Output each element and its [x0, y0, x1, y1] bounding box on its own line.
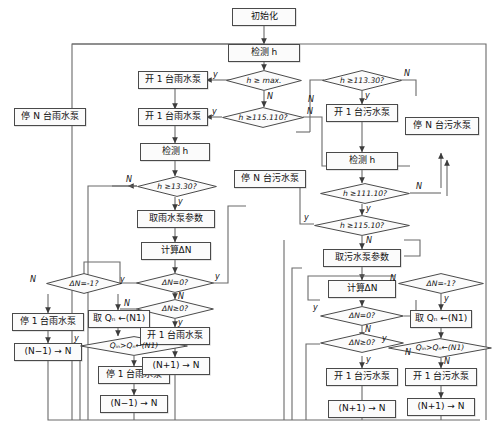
node-decision-h-max[interactable]: h ≥ max.: [226, 70, 302, 91]
edge-label-y-qin-right: y: [382, 334, 387, 343]
node-decision-h-113-30-right-label: h ≥113.30?: [340, 77, 384, 85]
node-stop-1-rain-pump-a-label: 停 1 台雨水泵: [20, 317, 76, 326]
node-open-1-sewage-pump-c[interactable]: 开 1 台污水泵: [405, 368, 477, 386]
node-decision-dn-neg1-right-label: ΔN=-1?: [427, 280, 456, 288]
edge-label-n-hmax: N: [267, 92, 273, 101]
node-decision-h-115110[interactable]: h ≥115.110?: [222, 107, 304, 128]
node-n-plus-1-right-a[interactable]: (N+1) → N: [328, 400, 396, 418]
edge-label-y-dnge0-right: y: [366, 355, 371, 364]
node-open-1-sewage-pump-b[interactable]: 开 1 台污水泵: [326, 368, 398, 386]
node-stop-n-sewage-pumps-mid-label: 停 N 台污水泵: [241, 174, 298, 183]
node-stop-n-rain-pumps-label: 停 N 台雨水泵: [21, 112, 78, 121]
node-decision-dn-neg1-left[interactable]: ΔN=-1?: [46, 273, 122, 294]
node-decision-dn-neg1-left-label: ΔN=-1?: [70, 280, 99, 288]
node-n-plus-1-left[interactable]: (N+1) → N: [142, 357, 210, 375]
node-open-1-sewage-pump-a-label: 开 1 台污水泵: [334, 108, 390, 117]
node-decision-h-113-30-left-label: h ≥13.30?: [157, 183, 196, 191]
edge-label-n-dnge0-left: N: [124, 299, 130, 308]
edge-label-y-qin-left: y: [74, 334, 79, 343]
node-open-1-rain-pump-a-label: 开 1 台雨水泵: [145, 75, 201, 84]
node-n-minus-1-left-a-label: (N−1) → N: [24, 347, 71, 356]
node-decision-qin-right-label: Qᵢₙ>Qₙ←(N1): [416, 344, 465, 352]
edge-label-n-dnneg1-left: N: [30, 275, 36, 284]
edge-label-y-h11510: y: [304, 213, 309, 222]
edge-label-n-h11110: N: [416, 182, 422, 191]
node-calc-dn-right[interactable]: 计算ΔN: [328, 280, 396, 298]
node-decision-h-113-30-left[interactable]: h ≥13.30?: [137, 176, 217, 197]
node-detect-h-top-label: 检测 h: [251, 48, 278, 57]
node-get-sewage-pump-params-label: 取污水泵参数: [335, 253, 389, 262]
node-n-plus-1-left-label: (N+1) → N: [152, 361, 199, 370]
node-stop-1-rain-pump-a[interactable]: 停 1 台雨水泵: [12, 313, 84, 331]
node-open-1-rain-pump-a[interactable]: 开 1 台雨水泵: [138, 71, 208, 89]
edge-label-n-dnge0-right: N: [405, 348, 411, 357]
node-decision-dn-eq0-right-label: ΔN=0?: [349, 312, 375, 320]
edge-label-y-dn0-right: y: [313, 303, 318, 312]
node-decision-dn-eq0-left-label: ΔN=0?: [162, 279, 188, 287]
node-detect-h-right[interactable]: 检测 h: [326, 152, 398, 170]
edge-label-n-dnneg1-right: N: [390, 274, 396, 283]
node-start[interactable]: 初始化: [232, 8, 296, 26]
node-open-1-rain-pump-b-label: 开 1 台雨水泵: [145, 112, 201, 121]
node-detect-h-left[interactable]: 检测 h: [140, 143, 210, 161]
node-n-plus-1-right-b[interactable]: (N+1) → N: [407, 398, 475, 416]
node-decision-qin-right[interactable]: Qᵢₙ>Qₙ←(N1): [388, 338, 492, 358]
node-decision-dn-eq0-left[interactable]: ΔN=0?: [136, 273, 214, 293]
node-decision-h-115-10[interactable]: h ≥115.10?: [314, 215, 410, 236]
node-calc-dn-left[interactable]: 计算ΔN: [141, 242, 211, 260]
node-stop-n-sewage-pumps-mid[interactable]: 停 N 台污水泵: [234, 170, 306, 188]
edge-label-n-qin-right: N: [444, 357, 450, 366]
node-open-1-rain-pump-b[interactable]: 开 1 台雨水泵: [138, 108, 208, 126]
node-decision-h-115-10-label: h ≥115.10?: [340, 222, 384, 230]
node-decision-dn-ge0-left-label: ΔN≥0?: [162, 305, 188, 313]
edge-label-y-dnneg1-right: y: [444, 294, 449, 303]
node-decision-h-111-10[interactable]: h ≥111.10?: [320, 183, 410, 204]
edge-label-n-h11330-right-2: N: [308, 95, 314, 104]
node-stop-n-sewage-pumps-right-label: 停 N 台污水泵: [413, 121, 470, 130]
node-n-minus-1-left-b[interactable]: (N−1) → N: [100, 395, 168, 413]
edge-label-y-h11330-left: y: [178, 197, 183, 206]
node-calc-dn-right-label: 计算ΔN: [347, 284, 378, 293]
node-get-qn-right-label: 取 Qₙ ←(N1): [415, 314, 467, 323]
node-open-1-sewage-pump-a[interactable]: 开 1 台污水泵: [326, 104, 398, 122]
node-start-label: 初始化: [251, 12, 278, 21]
edge-label-n-h11330-right: N: [404, 69, 410, 78]
node-decision-qin-left-label: Qᵢₙ>Qₙ←(N1): [110, 342, 159, 350]
node-n-minus-1-left-a[interactable]: (N−1) → N: [14, 343, 82, 361]
node-get-rain-pump-params[interactable]: 取雨水泵参数: [137, 210, 215, 228]
edge-label-y-dnneg1-left: y: [120, 275, 125, 284]
edge-label-y-dn0-left: y: [215, 272, 220, 281]
edge-label-y-h11110: y: [366, 204, 371, 213]
node-detect-h-right-label: 检测 h: [349, 156, 376, 165]
node-get-qn-left[interactable]: 取 Qₙ ←(N1): [88, 310, 150, 328]
edge-label-y-dnge0-left: y: [178, 318, 183, 327]
node-stop-n-rain-pumps[interactable]: 停 N 台雨水泵: [14, 108, 86, 126]
edge-label-y-h11330-right: y: [365, 91, 370, 100]
node-decision-h-max-label: h ≥ max.: [247, 77, 282, 85]
edge-label-n-dn0-right: N: [365, 325, 371, 334]
edge-label-n-h11330-left: N: [126, 175, 132, 184]
node-open-1-sewage-pump-c-label: 开 1 台污水泵: [413, 372, 469, 381]
node-decision-h-113-30-right[interactable]: h ≥113.30?: [322, 70, 402, 91]
node-get-qn-right[interactable]: 取 Qₙ ←(N1): [410, 310, 472, 328]
node-n-plus-1-right-a-label: (N+1) → N: [338, 404, 385, 413]
node-open-1-rain-pump-c-label: 开 1 台雨水泵: [147, 331, 203, 340]
node-detect-h-left-label: 检测 h: [162, 147, 189, 156]
edge-label-n-h11510: N: [366, 236, 372, 245]
flowchart-canvas: 初始化 检测 h h ≥ max. h ≥115.110? 开 1 台雨水泵 开…: [0, 0, 500, 446]
node-calc-dn-left-label: 计算ΔN: [161, 246, 192, 255]
node-decision-dn-ge0-right-label: ΔN≥0?: [349, 339, 375, 347]
node-detect-h-top[interactable]: 检测 h: [228, 44, 300, 62]
node-get-qn-left-label: 取 Qₙ ←(N1): [93, 314, 145, 323]
node-stop-n-sewage-pumps-right[interactable]: 停 N 台污水泵: [405, 117, 479, 135]
edge-label-n-h115110: N: [307, 107, 313, 116]
node-decision-h-115110-label: h ≥115.110?: [238, 114, 287, 122]
node-decision-dn-neg1-right[interactable]: ΔN=-1?: [398, 273, 484, 294]
node-decision-dn-eq0-right[interactable]: ΔN=0?: [320, 306, 404, 326]
node-n-plus-1-right-b-label: (N+1) → N: [417, 402, 464, 411]
edge-label-n-dn0-left: N: [178, 292, 184, 301]
node-n-minus-1-left-b-label: (N−1) → N: [110, 399, 157, 408]
node-get-sewage-pump-params[interactable]: 取污水泵参数: [323, 249, 401, 267]
node-get-rain-pump-params-label: 取雨水泵参数: [149, 214, 203, 223]
node-decision-h-111-10-label: h ≥111.10?: [343, 190, 387, 198]
